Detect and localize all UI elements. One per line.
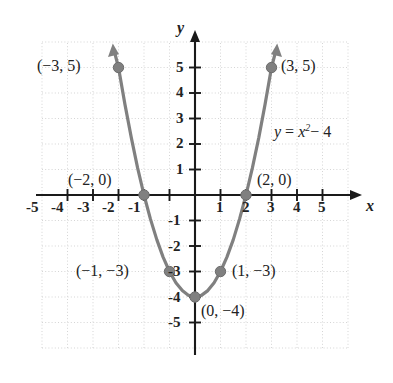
parabola-graph-figure: -5 -4 -3 -2 -1 1 2 3 4 5 5 4 3 2 1 -1 -2…: [0, 0, 393, 383]
x-tick-label-neg5: -5: [26, 200, 39, 215]
point-label-0-neg4: (0, −4): [201, 303, 245, 319]
point-label-1-neg3: (1, −3): [232, 263, 276, 279]
y-tick-label-neg4: -4: [168, 290, 181, 305]
y-tick-label-neg2: -2: [168, 239, 181, 254]
x-tick-label-neg4: -4: [51, 200, 64, 215]
x-tick-label-neg1: -1: [128, 200, 141, 215]
point-label-3-5: (3, 5): [281, 58, 316, 74]
x-axis-label: x: [366, 198, 374, 214]
y-tick-label-3: 3: [176, 111, 184, 126]
point-label-neg3-5: (−3, 5): [37, 58, 81, 74]
point-label-2-0: (2, 0): [257, 172, 292, 188]
x-tick-label-5: 5: [318, 200, 326, 215]
y-tick-label-neg5: -5: [168, 315, 181, 330]
x-tick-label-1: 1: [216, 200, 224, 215]
equation-constant-value: 4: [323, 123, 331, 140]
y-tick-label-neg3: -3: [168, 264, 181, 279]
equation-annotation: y = x2− 4: [274, 123, 331, 140]
x-tick-label-neg2: -2: [102, 200, 115, 215]
y-tick-label-1: 1: [176, 162, 184, 177]
point-3-5: [266, 62, 276, 72]
y-tick-label-neg1: -1: [168, 213, 181, 228]
x-tick-label-neg3: -3: [77, 200, 90, 215]
x-tick-label-4: 4: [293, 200, 301, 215]
y-axis: [190, 30, 200, 355]
equation-minus-sign: −: [310, 123, 319, 140]
y-tick-label-2: 2: [176, 136, 184, 151]
y-tick-label-5: 5: [176, 60, 184, 75]
y-axis-label: y: [177, 20, 184, 36]
point-neg3-5: [113, 62, 123, 72]
x-tick-label-3: 3: [267, 200, 275, 215]
point-1-neg3: [215, 266, 225, 276]
x-tick-label-2: 2: [242, 200, 250, 215]
y-tick-label-4: 4: [176, 85, 184, 100]
point-label-neg1-neg3: (−1, −3): [76, 263, 129, 279]
point-label-neg2-0: (−2, 0): [68, 172, 112, 188]
equation-equals-sign: =: [281, 123, 298, 140]
point-0-neg4: [190, 292, 200, 302]
